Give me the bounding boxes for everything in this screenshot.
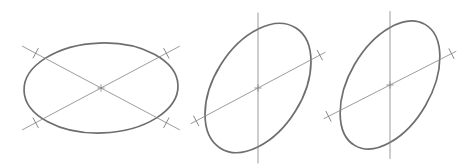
tilted-ellipse-right-diagonal-axis-tick-1 [326,111,331,121]
flat-wide-ellipse-major-diagonal-axis-tick-2 [164,48,169,58]
flat-wide-ellipse-minor-diagonal-axis-tick-2 [164,118,169,128]
flat-wide-ellipse-major-diagonal-axis-tick-1 [33,118,38,128]
flat-wide-ellipse-minor-diagonal-axis-tick-1 [33,48,38,58]
ellipse-diagram-canvas [0,0,472,168]
tilted-ellipse-left-diagonal-axis-tick-2 [317,50,322,60]
diagram-root [0,0,472,168]
tilted-ellipse-left-diagonal-axis-tick-1 [194,116,199,126]
tilted-ellipse-right-diagonal-axis-tick-2 [449,49,454,59]
flat-wide-ellipse-group [22,40,179,135]
figures-layer [22,4,460,168]
tilted-ellipse-right-group [319,4,460,166]
tilted-ellipse-left-group [183,4,333,168]
